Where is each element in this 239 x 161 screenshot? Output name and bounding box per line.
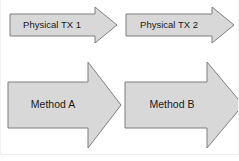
arrow-method-b-label: Method B	[150, 98, 195, 110]
arrow-physical-tx-2[interactable]: Physical TX 2	[126, 7, 234, 43]
arrow-method-a[interactable]: Method A	[8, 62, 121, 148]
arrow-physical-tx-1[interactable]: Physical TX 1	[10, 7, 117, 43]
diagram-canvas: Physical TX 1 Physical TX 2 Method A Met…	[0, 0, 239, 161]
arrow-method-b[interactable]: Method B	[125, 62, 239, 148]
arrow-physical-tx-1-label: Physical TX 1	[23, 19, 81, 30]
block-arrow-diagram: Physical TX 1 Physical TX 2 Method A Met…	[0, 0, 239, 161]
arrow-method-a-label: Method A	[31, 98, 75, 110]
arrow-physical-tx-2-label: Physical TX 2	[140, 19, 198, 30]
